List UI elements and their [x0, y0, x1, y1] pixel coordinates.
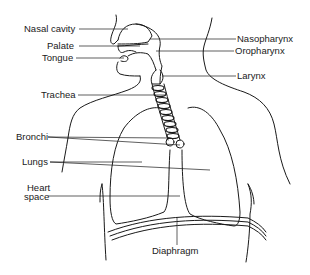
label-heart-space-line2: space — [24, 192, 49, 202]
label-nasal-cavity: Nasal cavity — [24, 24, 75, 34]
body-left — [102, 184, 106, 260]
face-profile — [111, 15, 118, 44]
bronchus-right — [176, 140, 184, 148]
diaphragm-line3 — [112, 224, 266, 240]
label-palate: Palate — [47, 41, 74, 51]
larynx-outline — [151, 70, 163, 84]
diaphragm-line1 — [108, 216, 266, 232]
label-tongue: Tongue — [42, 53, 73, 63]
leader-lungs-2 — [50, 162, 210, 170]
label-bronchi: Bronchi — [16, 132, 48, 142]
label-oropharynx: Oropharynx — [235, 46, 285, 56]
label-nasopharynx: Nasopharynx — [237, 34, 293, 44]
respiratory-diagram: Nasal cavity Palate Tongue Trachea Bronc… — [0, 0, 310, 275]
lung-left — [110, 108, 170, 224]
label-lungs: Lungs — [22, 157, 48, 167]
label-trachea: Trachea — [41, 90, 76, 100]
lung-right — [182, 107, 240, 226]
chin-outline — [117, 62, 140, 76]
label-diaphragm: Diaphragm — [152, 246, 198, 256]
pharynx-wall — [136, 24, 162, 84]
label-larynx: Larynx — [237, 71, 266, 81]
tongue-outline — [120, 56, 128, 62]
